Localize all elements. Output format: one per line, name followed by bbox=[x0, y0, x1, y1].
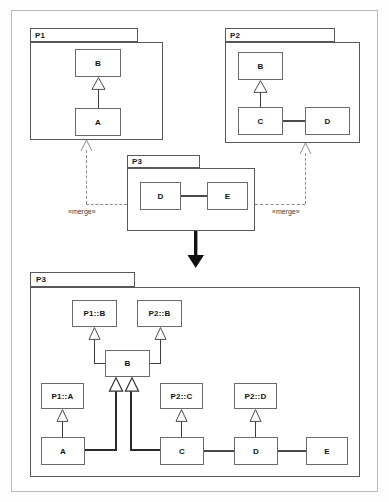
association-p3-d-e bbox=[181, 195, 207, 197]
dependency-merge-left-segment-vertical bbox=[86, 150, 87, 204]
dependency-merge-right-stereotype: «merge» bbox=[272, 208, 300, 215]
generalization-p1-a-to-b-arrowhead bbox=[91, 77, 106, 90]
package-p1-tab bbox=[30, 28, 138, 42]
generalization-a-to-p1a-arrowhead bbox=[56, 409, 69, 422]
class-result-p2-d[interactable]: P2::D bbox=[234, 383, 277, 409]
class-result-p1-a[interactable]: P1::A bbox=[41, 383, 84, 409]
generalization-b-to-p2b-arrowhead bbox=[154, 327, 167, 340]
class-result-a[interactable]: A bbox=[41, 437, 85, 465]
association-p2-c-d bbox=[283, 120, 305, 122]
generalization-a-to-p1a-line bbox=[62, 421, 63, 437]
generalization-c-to-p2c-line bbox=[181, 421, 182, 437]
class-p1-a[interactable]: A bbox=[75, 108, 121, 136]
generalization-c-to-p2c-arrowhead bbox=[175, 409, 188, 422]
dependency-merge-left-segment-horizontal bbox=[86, 204, 127, 205]
dependency-merge-left-arrowhead bbox=[80, 139, 93, 152]
generalization-a-to-b-arrowhead bbox=[108, 377, 124, 392]
dependency-merge-right-segment-horizontal bbox=[255, 204, 305, 205]
generalization-a-to-b-segment-horizontal bbox=[85, 449, 117, 451]
dependency-merge-right-arrowhead bbox=[299, 142, 312, 155]
class-result-c[interactable]: C bbox=[160, 437, 204, 465]
class-p2-c[interactable]: C bbox=[238, 107, 283, 135]
generalization-c-to-b-arrowhead bbox=[124, 377, 140, 392]
association-result-d-e bbox=[278, 450, 306, 452]
generalization-p2-c-to-b-arrowhead bbox=[253, 80, 268, 93]
class-p1-b[interactable]: B bbox=[75, 49, 121, 77]
generalization-b-to-p2b-segment-horizontal bbox=[150, 363, 161, 364]
package-p2-label: P2 bbox=[230, 31, 240, 40]
association-result-c-d bbox=[204, 450, 234, 452]
generalization-b-to-p1b-segment-horizontal bbox=[94, 363, 105, 364]
package-p1-label: P1 bbox=[35, 31, 45, 40]
package-p2-tab bbox=[225, 28, 335, 42]
dependency-merge-left-stereotype: «merge» bbox=[68, 208, 96, 215]
generalization-b-to-p2b-segment-vertical bbox=[160, 339, 161, 363]
generalization-d-to-p2d-arrowhead bbox=[249, 409, 262, 422]
class-result-p2-c[interactable]: P2::C bbox=[160, 383, 203, 409]
generalization-p1-a-to-b-line bbox=[98, 89, 99, 108]
generalization-a-to-b-segment-vertical bbox=[115, 391, 117, 450]
generalization-c-to-b-segment-vertical bbox=[130, 391, 132, 450]
generalization-d-to-p2d-line bbox=[255, 421, 256, 437]
class-result-b[interactable]: B bbox=[105, 350, 150, 377]
class-result-p2-b[interactable]: P2::B bbox=[137, 300, 182, 327]
class-p3-e[interactable]: E bbox=[207, 182, 248, 210]
dependency-merge-right-segment-vertical bbox=[305, 153, 306, 204]
result-arrow bbox=[186, 231, 206, 269]
generalization-c-to-b-segment-horizontal bbox=[130, 449, 160, 451]
class-result-e[interactable]: E bbox=[306, 437, 348, 465]
class-p2-b[interactable]: B bbox=[238, 52, 283, 80]
diagram-canvas: P1 B A P2 B C D P3 D bbox=[0, 0, 389, 502]
generalization-p2-c-to-b-line bbox=[260, 92, 261, 107]
package-p3-result-label: P3 bbox=[36, 275, 46, 284]
class-result-p1-b[interactable]: P1::B bbox=[72, 300, 117, 327]
class-p3-d[interactable]: D bbox=[140, 182, 181, 210]
package-p3-source-label: P3 bbox=[132, 157, 142, 166]
generalization-b-to-p1b-arrowhead bbox=[88, 327, 101, 340]
class-p2-d[interactable]: D bbox=[305, 107, 350, 135]
generalization-b-to-p1b-segment-vertical bbox=[94, 339, 95, 363]
class-result-d[interactable]: D bbox=[234, 437, 278, 465]
